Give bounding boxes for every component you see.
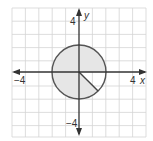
x-tick-neg-label: −4 [14,75,26,86]
y-tick-pos-label: 4 [70,16,76,27]
y-tick-neg-label: −4 [66,118,78,129]
coordinate-plane: −4 4 x 4 y −4 [0,0,153,141]
y-axis-arrow-up-icon [76,8,82,16]
x-tick-pos-label: 4 [130,75,136,86]
y-axis-arrow-down-icon [76,128,82,136]
x-axis-label: x [139,75,146,86]
y-axis-label: y [83,10,90,21]
